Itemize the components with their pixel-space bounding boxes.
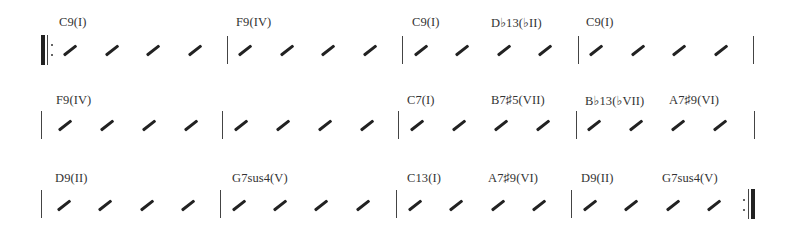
beat-slash-icon [538,44,552,56]
barline [41,111,42,139]
repeat-dot-icon [743,209,745,211]
beat-slash-icon [494,119,508,131]
beat-slash-icon [671,119,685,131]
beat-slash-icon [57,199,71,211]
beat-slash-icon [105,44,119,56]
barline [41,190,42,218]
barline [571,190,572,218]
barline [578,36,579,64]
beat-slash-icon [624,199,638,211]
beat-slash-icon [536,119,550,131]
barline [396,190,397,218]
beat-slash-icon [314,199,328,211]
beat-slash-icon [449,199,463,211]
end-repeat-thin-barline [748,189,749,219]
barline [220,190,221,218]
barline [576,111,577,139]
barline [402,36,403,64]
system-row-3: D9(II) G7sus4(V) C13(I) A7♯9(VI) D9(II) … [0,167,792,227]
beat-slash-icon [452,119,466,131]
beat-slash-icon [356,199,370,211]
beat-slash-icon [273,199,287,211]
beat-slash-icon [184,119,198,131]
chord-symbol: C9(I) [586,15,614,30]
beat-slash-icon [63,44,77,56]
beat-slash-icon [589,44,603,56]
system-row-1: C9(I) F9(IV) C9(I) D♭13(♭II) C9(I) [0,12,792,72]
chord-symbol: F9(IV) [56,93,91,108]
beat-slash-icon [714,44,728,56]
system-row-2: F9(IV) C7(I) B7♯5(VII) B♭13(♭VII) A7♯9(V… [0,89,792,149]
beat-slash-icon [363,44,377,56]
barline [754,111,755,139]
chord-symbol: C9(I) [59,15,87,30]
start-repeat-thin-barline [47,35,48,65]
beat-slash-icon [408,199,422,211]
chord-symbol: B♭13(♭VII) [585,93,644,109]
beat-slash-icon [234,119,248,131]
beat-slash-icon [146,44,160,56]
chord-symbol: C13(I) [407,171,441,186]
beat-slash-icon [666,199,680,211]
beat-slash-icon [321,44,335,56]
chord-symbol: C7(I) [407,93,435,108]
beat-slash-icon [713,119,727,131]
beat-slash-icon [532,199,546,211]
chord-symbol: D9(II) [55,171,88,186]
chord-symbol: B7♯5(VII) [491,93,545,108]
beat-slash-icon [587,119,601,131]
beat-slash-icon [583,199,597,211]
beat-slash-icon [318,119,332,131]
beat-slash-icon [142,119,156,131]
barline [753,36,754,64]
beat-slash-icon [100,119,114,131]
end-repeat-thick-barline [751,189,755,219]
beat-slash-icon [188,44,202,56]
beat-slash-icon [360,119,374,131]
beat-slash-icon [455,44,469,56]
chord-symbol: A7♯9(VI) [669,93,719,108]
barline [222,111,223,139]
chord-symbol: G7sus4(V) [232,171,288,186]
start-repeat-thick-barline [41,35,45,65]
beat-slash-icon [181,199,195,211]
repeat-dot-icon [743,199,745,201]
barline [227,36,228,64]
beat-slash-icon [414,44,428,56]
beat-slash-icon [276,119,290,131]
beat-slash-icon [631,44,645,56]
repeat-dot-icon [51,44,53,46]
beat-slash-icon [672,44,686,56]
chord-symbol: D9(II) [581,171,614,186]
beat-slash-icon [280,44,294,56]
repeat-dot-icon [51,54,53,56]
beat-slash-icon [410,119,424,131]
beat-slash-icon [629,119,643,131]
beat-slash-icon [98,199,112,211]
beat-slash-icon [707,199,721,211]
chord-symbol: G7sus4(V) [662,171,718,186]
beat-slash-icon [232,199,246,211]
chord-symbol: C9(I) [412,15,440,30]
chord-symbol: A7♯9(VI) [488,171,538,186]
beat-slash-icon [58,119,72,131]
beat-slash-icon [497,44,511,56]
beat-slash-icon [491,199,505,211]
barline [398,111,399,139]
beat-slash-icon [140,199,154,211]
chord-symbol: D♭13(♭II) [491,15,542,31]
beat-slash-icon [238,44,252,56]
chord-symbol: F9(IV) [236,15,271,30]
